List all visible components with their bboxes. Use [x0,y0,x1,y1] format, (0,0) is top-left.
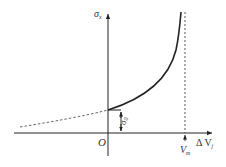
intercept-label: σ0 [118,118,129,125]
origin-label: O [98,136,106,148]
stress-displacement-diagram: σx σ0 O Vm Δ Vj [0,0,226,167]
stress-curve [108,12,181,110]
y-axis-label: σx [94,8,102,20]
asymptote-label: Vm [180,144,191,156]
dashed-curve-extension [20,110,108,127]
x-axis-label: Δ Vj [196,137,214,149]
